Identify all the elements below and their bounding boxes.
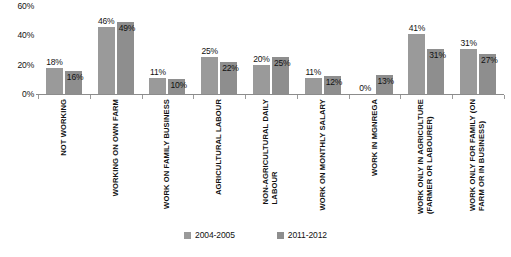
bar-value-label: 22% (222, 64, 238, 73)
x-axis-label-line: WORKING ON OWN FARM (110, 99, 119, 196)
x-axis-label-line: WORK ON MONTHLY SALARY (318, 99, 327, 211)
legend-label: 2011-2012 (288, 231, 327, 240)
bar-value-label: 18% (46, 58, 62, 67)
x-axis-label: NON-AGRICULTURAL DAILYLABOUR (262, 99, 279, 204)
bar-slot: 49% (117, 6, 134, 94)
x-axis-label-line: LABOUR (271, 99, 280, 204)
bar[interactable] (201, 57, 218, 94)
plot-area: 18%16%46%49%11%10%25%22%20%25%11%12%0%13… (38, 6, 504, 94)
bar-slot: 0% (357, 6, 374, 94)
bar[interactable] (149, 78, 166, 94)
x-label-cell: WORK ON MONTHLY SALARY (297, 99, 349, 215)
bar-value-label: 10% (170, 81, 186, 90)
y-axis: 60% 40% 20% 0% (0, 6, 36, 94)
x-label-cell: WORK IN MGNREGA (349, 99, 401, 215)
bar-group: 46%49% (90, 6, 142, 94)
x-axis-label-line: NOT WORKING (59, 99, 68, 156)
bar-value-label: 16% (67, 73, 83, 82)
axis-tick (504, 95, 505, 99)
x-axis-label: WORK ONLY IN AGRICULTURE(FARMER OR LABOU… (418, 99, 435, 214)
bar-slot: 10% (168, 6, 185, 94)
x-axis-labels: NOT WORKINGWORKING ON OWN FARMWORK ON FA… (38, 99, 504, 215)
bar-group: 11%10% (142, 6, 194, 94)
bar-value-label: 31% (460, 39, 476, 48)
x-axis-label: WORK ONLY FOR FAMILY (ONFARM OR IN BUSIN… (470, 99, 487, 211)
x-axis-label: AGRICULTURAL LABOUR (215, 99, 224, 195)
legend-item-2004-2005[interactable]: 2004-2005 (184, 231, 235, 240)
bar-value-label: 49% (119, 24, 135, 33)
bar-value-label: 12% (326, 78, 342, 87)
bar-value-label: 11% (150, 68, 166, 77)
x-label-cell: WORK ONLY IN AGRICULTURE(FARMER OR LABOU… (400, 99, 452, 215)
bar-value-label: 20% (253, 55, 269, 64)
bar-value-label: 46% (98, 17, 114, 26)
bar-slot: 11% (149, 6, 166, 94)
bar-slot: 12% (324, 6, 341, 94)
bar[interactable] (305, 78, 322, 94)
x-axis-label-line: WORK ON FAMILY BUSINESS (162, 99, 171, 209)
bar-slot: 27% (479, 6, 496, 94)
y-tick-label-40: 40% (18, 31, 34, 40)
x-label-cell: WORK ONLY FOR FAMILY (ONFARM OR IN BUSIN… (452, 99, 504, 215)
bar-slot: 11% (305, 6, 322, 94)
bar-group: 11%12% (297, 6, 349, 94)
x-label-cell: NOT WORKING (38, 99, 90, 215)
bar-slot: 31% (460, 6, 477, 94)
x-axis-label-line: WORK ONLY IN AGRICULTURE (417, 99, 426, 214)
x-axis-label: WORK ON MONTHLY SALARY (319, 99, 328, 211)
x-axis-label-line: WORK ONLY FOR FAMILY (ON (469, 99, 478, 211)
bar-group: 25%22% (193, 6, 245, 94)
x-axis-label-line: (FARMER OR LABOURER) (426, 99, 435, 214)
bar-slot: 25% (272, 6, 289, 94)
bar-chart: 60% 40% 20% 0% 18%16%46%49%11%10%25%22%2… (0, 0, 511, 257)
bar-group: 20%25% (245, 6, 297, 94)
bar[interactable] (98, 27, 115, 94)
x-axis-label: WORKING ON OWN FARM (111, 99, 120, 196)
bar-group: 31%27% (452, 6, 504, 94)
x-axis-label: WORK IN MGNREGA (370, 99, 379, 176)
x-axis-label-line: FARM OR IN BUSINESS) (478, 99, 487, 211)
bar-value-label: 41% (409, 24, 425, 33)
bar-slot: 13% (376, 6, 393, 94)
bar-slot: 22% (220, 6, 237, 94)
bar-slot: 25% (201, 6, 218, 94)
legend-swatch-icon (184, 232, 191, 239)
bar-value-label: 0% (359, 84, 371, 93)
legend-item-2011-2012[interactable]: 2011-2012 (277, 231, 327, 240)
bar-value-label: 27% (481, 56, 497, 65)
y-tick-label-60: 60% (18, 2, 34, 11)
x-axis-label: NOT WORKING (60, 99, 69, 156)
bar-slot: 18% (46, 6, 63, 94)
bar[interactable] (460, 49, 477, 94)
legend-label: 2004-2005 (195, 231, 235, 240)
bar-slot: 20% (253, 6, 270, 94)
x-axis-label-line: NON-AGRICULTURAL DAILY (261, 99, 270, 204)
bar-slot: 41% (408, 6, 425, 94)
x-axis-label-line: WORK IN MGNREGA (369, 99, 378, 176)
bar-group: 0%13% (349, 6, 401, 94)
bar[interactable] (408, 34, 425, 94)
chart-legend: 2004-2005 2011-2012 (0, 231, 511, 240)
y-tick-label-20: 20% (18, 60, 34, 69)
bar-group: 18%16% (38, 6, 90, 94)
x-axis-label-line: AGRICULTURAL LABOUR (214, 99, 223, 195)
bar-group: 41%31% (400, 6, 452, 94)
legend-swatch-icon (277, 232, 284, 239)
bar[interactable] (46, 68, 63, 94)
x-label-cell: WORKING ON OWN FARM (90, 99, 142, 215)
bar-value-label: 25% (274, 59, 290, 68)
y-tick-label-0: 0% (22, 90, 34, 99)
x-label-cell: WORK ON FAMILY BUSINESS (142, 99, 194, 215)
bar-slot: 31% (427, 6, 444, 94)
bar-value-label: 13% (378, 77, 394, 86)
x-label-cell: AGRICULTURAL LABOUR (193, 99, 245, 215)
bar-slot: 16% (65, 6, 82, 94)
bar-value-label: 31% (429, 51, 445, 60)
bar-value-label: 25% (202, 47, 218, 56)
x-label-cell: NON-AGRICULTURAL DAILYLABOUR (245, 99, 297, 215)
x-axis-label: WORK ON FAMILY BUSINESS (163, 99, 172, 209)
bar-slot: 46% (98, 6, 115, 94)
bar[interactable] (253, 65, 270, 94)
bar-value-label: 11% (305, 68, 321, 77)
